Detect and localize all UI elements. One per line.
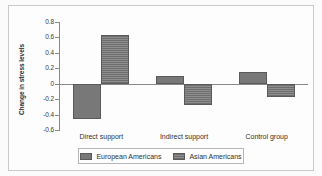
y-axis-tick-label: 0 (20, 80, 54, 87)
chart-canvas: Change in stress levels 0.80.60.40.20-0.… (0, 0, 322, 176)
y-axis-tick-labels: 0.80.60.40.20-0.2-0.4-0.6 (16, 0, 54, 176)
y-axis-tick-label: -0.4 (20, 111, 54, 118)
y-axis-tick-label: 0.6 (20, 33, 54, 40)
y-axis-tick-label: 0.4 (20, 49, 54, 56)
legend-swatch-icon-european-americans (80, 153, 92, 160)
y-axis-tick (55, 53, 60, 54)
y-axis-tick (55, 130, 60, 131)
legend-item-european-americans: European Americans (80, 153, 161, 160)
bar (267, 84, 295, 97)
bar (156, 76, 184, 84)
y-axis-tick-label: 0.2 (20, 64, 54, 71)
plot-area (60, 22, 308, 130)
chart-legend: European Americans Asian Americans (78, 148, 244, 164)
legend-label-european-americans: European Americans (96, 153, 161, 160)
y-axis-tick (55, 22, 60, 23)
y-axis-tick (55, 99, 60, 100)
bar (184, 84, 212, 105)
y-axis-tick-label: 0.8 (20, 18, 54, 25)
y-axis-tick (55, 68, 60, 69)
bar (73, 84, 101, 119)
y-axis-tick-label: -0.6 (20, 126, 54, 133)
x-axis-category-label: Control group (217, 133, 317, 140)
legend-item-asian-americans: Asian Americans (173, 153, 241, 160)
y-axis-tick-label: -0.2 (20, 95, 54, 102)
y-axis-tick (55, 84, 60, 85)
legend-label-asian-americans: Asian Americans (189, 153, 241, 160)
bar (239, 72, 267, 84)
y-axis-tick (55, 115, 60, 116)
legend-swatch-icon-asian-americans (173, 153, 185, 160)
y-axis-tick (55, 37, 60, 38)
bar (101, 35, 129, 84)
